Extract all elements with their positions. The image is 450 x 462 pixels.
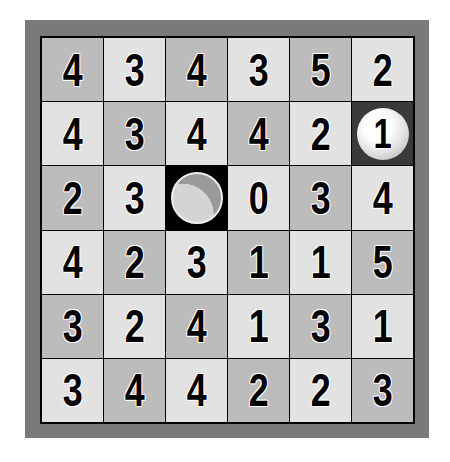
cell-number: 2 xyxy=(63,175,83,221)
cell-number: 5 xyxy=(311,47,331,93)
grid-cell[interactable]: 4 xyxy=(42,38,103,101)
cell-number: 4 xyxy=(187,47,207,93)
grid-cell[interactable]: 1 xyxy=(228,295,289,358)
cell-number: 4 xyxy=(63,239,83,285)
cell-number: 1 xyxy=(373,303,393,349)
cell-number: 4 xyxy=(63,47,83,93)
grid-cell[interactable]: 3 xyxy=(290,295,351,358)
grid-cell[interactable]: 2 xyxy=(104,231,165,294)
cell-number: 3 xyxy=(249,47,269,93)
grid-cell[interactable]: 4 xyxy=(166,38,227,101)
cell-number: 4 xyxy=(187,111,207,157)
grid-cell[interactable]: 2 xyxy=(228,359,289,422)
cell-number: 3 xyxy=(187,239,207,285)
grid-cell[interactable]: 3 xyxy=(42,359,103,422)
game-grid: 43435243442123034423115324131344223 xyxy=(40,36,415,424)
cell-number: 4 xyxy=(63,111,83,157)
grid-cell[interactable]: 2 xyxy=(352,38,413,101)
grid-cell[interactable]: 1 xyxy=(290,231,351,294)
cell-number: 3 xyxy=(125,175,145,221)
cell-number: 2 xyxy=(125,239,145,285)
hole-cell[interactable] xyxy=(166,166,227,229)
grid-cell[interactable]: 3 xyxy=(290,166,351,229)
grid-cell[interactable]: 0 xyxy=(228,166,289,229)
cell-number: 0 xyxy=(249,175,269,221)
ball-cell[interactable]: 1 xyxy=(352,102,413,165)
grid-cell[interactable]: 5 xyxy=(352,231,413,294)
grid-cell[interactable]: 5 xyxy=(290,38,351,101)
cell-number: 1 xyxy=(249,239,269,285)
grid-cell[interactable]: 3 xyxy=(42,295,103,358)
grid-cell[interactable]: 3 xyxy=(166,231,227,294)
cell-number: 4 xyxy=(187,303,207,349)
grid-cell[interactable]: 4 xyxy=(42,231,103,294)
golf-ball-icon: 1 xyxy=(357,108,409,160)
grid-cell[interactable]: 4 xyxy=(166,359,227,422)
grid-cell[interactable]: 3 xyxy=(104,102,165,165)
grid-cell[interactable]: 2 xyxy=(104,295,165,358)
cell-number: 2 xyxy=(125,303,145,349)
cell-number: 3 xyxy=(311,175,331,221)
grid-cell[interactable]: 4 xyxy=(352,166,413,229)
grid-cell[interactable]: 4 xyxy=(104,359,165,422)
grid-cell[interactable]: 2 xyxy=(42,166,103,229)
cell-number: 2 xyxy=(249,367,269,413)
grid-cell[interactable]: 4 xyxy=(166,295,227,358)
cell-number: 3 xyxy=(311,303,331,349)
grid-cell[interactable]: 4 xyxy=(42,102,103,165)
grid-cell[interactable]: 1 xyxy=(352,295,413,358)
ball-value: 1 xyxy=(373,113,391,155)
grid-cell[interactable]: 4 xyxy=(228,102,289,165)
cell-number: 2 xyxy=(311,367,331,413)
cell-number: 3 xyxy=(63,367,83,413)
cell-number: 3 xyxy=(63,303,83,349)
cell-number: 2 xyxy=(311,111,331,157)
cell-number: 4 xyxy=(373,175,393,221)
grid-cell[interactable]: 3 xyxy=(104,38,165,101)
cell-number: 5 xyxy=(373,239,393,285)
cell-number: 2 xyxy=(373,47,393,93)
cell-number: 4 xyxy=(249,111,269,157)
grid-cell[interactable]: 4 xyxy=(166,102,227,165)
grid-cell[interactable]: 3 xyxy=(352,359,413,422)
cell-number: 3 xyxy=(125,111,145,157)
grid-cell[interactable]: 3 xyxy=(228,38,289,101)
grid-cell[interactable]: 3 xyxy=(104,166,165,229)
cell-number: 1 xyxy=(249,303,269,349)
cell-number: 1 xyxy=(311,239,331,285)
hole-icon xyxy=(171,172,223,224)
grid-cell[interactable]: 2 xyxy=(290,359,351,422)
cell-number: 4 xyxy=(125,367,145,413)
grid-cell[interactable]: 1 xyxy=(228,231,289,294)
cell-number: 3 xyxy=(373,367,393,413)
cell-number: 4 xyxy=(187,367,207,413)
grid-cell[interactable]: 2 xyxy=(290,102,351,165)
cell-number: 3 xyxy=(125,47,145,93)
